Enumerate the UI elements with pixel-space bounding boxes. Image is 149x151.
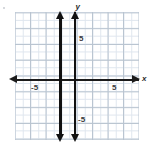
x-axis-tick-label-negative-5: -5 xyxy=(31,84,38,92)
plotted-line-left-bottom-arrow-icon xyxy=(56,134,64,142)
major-gridlines xyxy=(15,12,139,140)
plot-area xyxy=(15,12,139,140)
plotted-line-right-bottom-arrow-icon xyxy=(71,134,79,142)
plotted-line-x-equals-negative-2 xyxy=(59,17,61,136)
x-axis-line xyxy=(15,79,139,81)
y-axis-tick-label-negative-5: -5 xyxy=(78,116,85,124)
y-axis-tick-label-5: 5 xyxy=(79,35,83,43)
x-axis-left-arrow-icon xyxy=(9,75,17,83)
plotted-line-left-top-arrow-icon xyxy=(56,11,64,19)
x-axis-tick-label-5: 5 xyxy=(112,84,116,92)
y-axis-label: y xyxy=(76,3,80,11)
corner-dot-marker xyxy=(3,7,5,9)
coordinate-plane-graph: -5 5 5 -5 x y xyxy=(0,0,149,151)
plotted-line-right-top-arrow-icon xyxy=(71,11,79,19)
x-axis-right-arrow-icon xyxy=(132,75,140,83)
x-axis-label: x xyxy=(142,75,146,83)
plotted-line-x-equals-0 xyxy=(74,17,76,136)
